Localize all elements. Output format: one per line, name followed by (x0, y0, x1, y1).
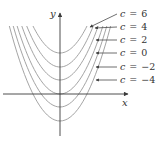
x-axis-label: x (122, 97, 128, 108)
label-arrow (95, 27, 117, 28)
parabola-family-diagram: y x c=6c=4c=2c=0c=−2c=−4 (0, 0, 158, 157)
curve-label: c=6 (120, 8, 147, 19)
curve-label: c=0 (120, 47, 147, 58)
curve-label: c=4 (120, 21, 147, 32)
curve-labels: c=6c=4c=2c=0c=−2c=−4 (90, 8, 155, 85)
label-arrow (90, 14, 117, 27)
curve-label: c=−2 (120, 61, 155, 72)
curve-label: c=−4 (120, 74, 155, 85)
y-axis-label: y (49, 8, 56, 19)
curve-label: c=2 (120, 34, 147, 45)
